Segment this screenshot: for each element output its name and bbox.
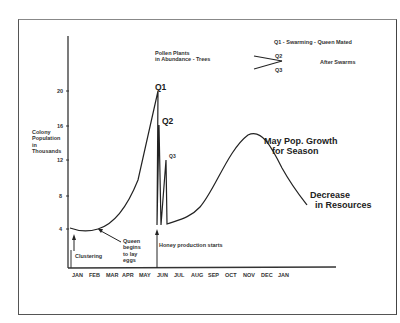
- y-tick-12: 12: [57, 157, 63, 163]
- x-tick-jun: JUN: [157, 272, 168, 278]
- pollen-annotation: Pollen Plants in Abundance - Trees: [155, 50, 210, 63]
- x-tick-aug: AUG: [191, 272, 203, 278]
- x-tick-may: MAY: [139, 272, 151, 278]
- x-tick-oct: OCT: [225, 272, 237, 278]
- growth-annotation: May Pop. Growth for Season: [264, 136, 338, 157]
- x-tick-feb: FEB: [89, 272, 100, 278]
- y-tick-4: 4: [59, 226, 62, 232]
- decrease-annotation: Decrease in Resources: [310, 190, 372, 211]
- x-tick-mar: MAR: [106, 272, 119, 278]
- x-tick-jul: JUL: [174, 272, 184, 278]
- queen-annotation: Queen begins to lay eggs: [123, 238, 141, 263]
- x-tick-sep: SEP: [208, 272, 219, 278]
- x-tick-dec: DEC: [261, 272, 273, 278]
- x-axis: [68, 267, 336, 268]
- legend-q2: Q2: [275, 53, 282, 59]
- peak-label-q3: Q3: [169, 154, 176, 160]
- x-tick-apr: APR: [122, 272, 134, 278]
- legend-after-swarms: After Swarms: [320, 59, 355, 65]
- x-tick-nov: NOV: [243, 272, 255, 278]
- clustering-annotation: Clustering: [75, 253, 102, 259]
- peak-label-q2: Q2: [162, 117, 173, 127]
- population-curve: [70, 91, 307, 231]
- queen-arrow: [101, 231, 121, 242]
- peak-label-q1: Q1: [155, 83, 166, 93]
- queen-arrowhead: [98, 229, 103, 233]
- x-tick-jan: JAN: [72, 272, 83, 278]
- y-tick-20: 20: [57, 88, 63, 94]
- honey-arrowhead: [155, 229, 159, 235]
- legend-q1: Q1 - Swarming - Queen Mated: [274, 39, 352, 45]
- x-tick-jan-end: JAN: [278, 272, 289, 278]
- legend-q3: Q3: [275, 67, 282, 73]
- y-axis-label: Colony Population in Thousands: [32, 129, 61, 154]
- y-tick-8: 8: [59, 193, 62, 199]
- clustering-arrowhead: [72, 234, 76, 240]
- honey-annotation: Honey production starts: [159, 242, 223, 248]
